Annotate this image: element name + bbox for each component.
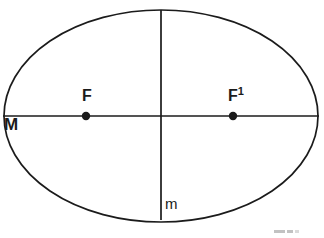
label-focus-left: F (82, 88, 92, 104)
label-focus-right-superscript: 1 (238, 85, 244, 97)
label-minor-vertex-bottom: m (165, 196, 178, 211)
label-major-vertex-left: M (4, 116, 18, 133)
ellipse-diagram: M F F1 m (0, 0, 324, 238)
focus-point-right (229, 112, 237, 120)
cropped-caption-artifact (274, 229, 304, 235)
label-focus-right-base: F (228, 87, 238, 104)
label-focus-right: F1 (228, 88, 244, 104)
artifact-mark-2 (287, 230, 293, 233)
artifact-mark-1 (274, 230, 285, 233)
ellipse-diagram-canvas (0, 0, 324, 238)
artifact-mark-3 (295, 230, 299, 233)
focus-point-left (82, 112, 90, 120)
